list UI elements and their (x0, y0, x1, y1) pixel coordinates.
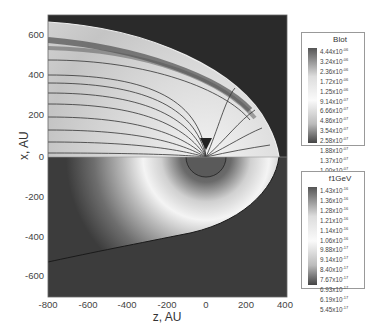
legend-value: 1.36x10-16 (320, 195, 348, 205)
legend-value: 1.06x10-16 (320, 235, 348, 245)
legend-value: 1.25x10-06 (320, 86, 348, 96)
legend-value: 5.45x10-17 (320, 304, 348, 314)
y-tick: -200 (25, 191, 44, 202)
x-axis-label: z, AU (153, 310, 182, 324)
legend-value: 8.40x10-17 (320, 264, 348, 274)
legend-values: 4.44x10-063.24x10-062.36x10-061.72x10-06… (320, 46, 348, 175)
legend-value: 1.14x10-16 (320, 225, 348, 235)
legend-value: 4.44x10-06 (320, 46, 348, 56)
y-tick: 0 (39, 151, 44, 162)
x-tick: 0 (203, 299, 208, 310)
plot-area (48, 15, 287, 297)
legend-value: 2.36x10-06 (320, 66, 348, 76)
legend-value: 3.24x10-06 (320, 56, 348, 66)
legend-value: 9.88x10-17 (320, 244, 348, 254)
legend-value: 1.88x10-07 (320, 145, 348, 155)
legend-f1gev: f1GeV 1.43x10-161.36x10-161.28x10-161.21… (301, 171, 365, 289)
y-tick: -600 (25, 270, 44, 281)
y-axis: 600 400 200 0 -200 -400 -600 x, AU (17, 29, 44, 281)
legend-value: 1.72x10-06 (320, 76, 348, 86)
legend-value: 6.66x10-07 (320, 105, 348, 115)
colorbar (308, 48, 317, 143)
legend-value: 1.43x10-16 (320, 185, 348, 195)
blot-panel (48, 15, 287, 157)
legend-value: 1.37x10-07 (320, 155, 348, 165)
legend-blot: Blot 4.44x10-063.24x10-062.36x10-061.72x… (301, 32, 365, 146)
y-tick: 200 (28, 109, 44, 120)
legend-value: 1.28x10-16 (320, 205, 348, 215)
x-tick: -200 (157, 299, 176, 310)
legend-value: 2.58x10-07 (320, 135, 348, 145)
legend-value: 3.54x10-07 (320, 125, 348, 135)
legend-value: 6.93x10-17 (320, 284, 348, 294)
x-tick: -600 (78, 299, 97, 310)
legend-title: f1GeV (302, 174, 364, 183)
y-tick: 600 (28, 29, 44, 40)
y-tick: 400 (28, 69, 44, 80)
legend-values: 1.43x10-161.36x10-161.28x10-161.21x10-16… (320, 185, 348, 314)
f1gev-panel (48, 137, 287, 297)
legend-value: 9.14x10-17 (320, 254, 348, 264)
y-axis-label: x, AU (17, 131, 31, 160)
legend-value: 6.19x10-17 (320, 294, 348, 304)
legend-value: 4.86x10-07 (320, 115, 348, 125)
x-tick: 400 (277, 299, 293, 310)
colorbar (308, 187, 317, 285)
y-tick: -400 (25, 231, 44, 242)
legend-value: 1.21x10-16 (320, 215, 348, 225)
legend-value: 7.67x10-17 (320, 274, 348, 284)
legend-value: 9.14x10-07 (320, 96, 348, 106)
x-axis: -800 -600 -400 -200 0 200 400 z, AU (38, 299, 292, 324)
x-tick: 200 (238, 299, 254, 310)
legend-title: Blot (302, 35, 364, 44)
x-tick: -400 (117, 299, 136, 310)
x-tick: -800 (38, 299, 57, 310)
